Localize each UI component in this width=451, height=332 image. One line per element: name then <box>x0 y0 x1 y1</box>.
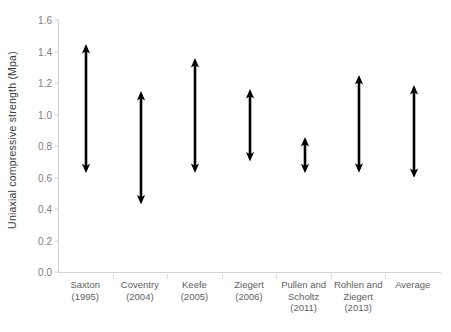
range-column <box>114 20 169 272</box>
x-axis-category-line: Ziegert <box>222 279 277 291</box>
x-axis-category-line: Average <box>385 279 440 291</box>
double-headed-arrow-icon <box>298 137 311 173</box>
range-arrow <box>298 137 311 173</box>
x-axis-category-line: Rohlen and <box>331 279 386 291</box>
x-axis-category-label: Pullen andScholtz(2011) <box>276 274 331 330</box>
x-axis-category-line: Coventry <box>113 279 168 291</box>
double-headed-arrow-icon <box>353 75 366 173</box>
x-axis-category-line: (2011) <box>276 302 331 314</box>
plot-area: 1.61.41.21.00.80.60.40.20.0 <box>58 20 441 273</box>
x-axis-category-line: Keefe (2005) <box>167 279 222 302</box>
x-axis-category-line: (2013) <box>331 302 386 314</box>
range-arrow <box>407 85 420 178</box>
double-headed-arrow-icon <box>134 91 147 204</box>
x-axis-category-line: Pullen and <box>276 279 331 291</box>
x-axis-tick-mark <box>276 274 277 279</box>
double-headed-arrow-icon <box>243 89 256 161</box>
range-column <box>332 20 387 272</box>
x-axis-category-line: (1995) <box>58 291 113 303</box>
x-axis-labels: Saxton(1995)Coventry(2004)Keefe (2005)Zi… <box>58 274 440 330</box>
double-headed-arrow-icon <box>80 44 93 173</box>
range-column <box>277 20 332 272</box>
x-axis-category-label: Ziegert(2006) <box>222 274 277 330</box>
range-arrow <box>189 58 202 173</box>
range-arrow <box>80 44 93 173</box>
x-axis-tick-mark <box>385 274 386 279</box>
range-arrow <box>243 89 256 161</box>
double-headed-arrow-icon <box>189 58 202 173</box>
y-axis-title: Uniaxial compressive strength (Mpa) <box>0 0 24 280</box>
range-column <box>223 20 278 272</box>
chart-container: Uniaxial compressive strength (Mpa) 1.61… <box>0 0 451 332</box>
x-axis-category-label: Average <box>385 274 440 330</box>
y-axis-title-text: Uniaxial compressive strength (Mpa) <box>6 51 18 229</box>
range-column <box>59 20 114 272</box>
range-column <box>386 20 441 272</box>
x-axis-category-line: Ziegert <box>331 291 386 303</box>
x-axis-tick-mark <box>222 274 223 279</box>
x-axis-category-label: Rohlen andZiegert(2013) <box>331 274 386 330</box>
x-axis-tick-mark <box>113 274 114 279</box>
range-arrow <box>353 75 366 173</box>
x-axis-category-line: Scholtz <box>276 291 331 303</box>
x-axis-category-line: (2006) <box>222 291 277 303</box>
x-axis-category-label: Saxton(1995) <box>58 274 113 330</box>
x-axis-category-label: Keefe (2005) <box>167 274 222 330</box>
x-axis-category-line: Saxton <box>58 279 113 291</box>
double-headed-arrow-icon <box>407 85 420 178</box>
x-axis-tick-mark <box>331 274 332 279</box>
x-axis-category-label: Coventry(2004) <box>113 274 168 330</box>
range-arrow <box>134 91 147 204</box>
x-axis-category-line: (2004) <box>113 291 168 303</box>
range-column <box>168 20 223 272</box>
x-axis-tick-mark <box>167 274 168 279</box>
